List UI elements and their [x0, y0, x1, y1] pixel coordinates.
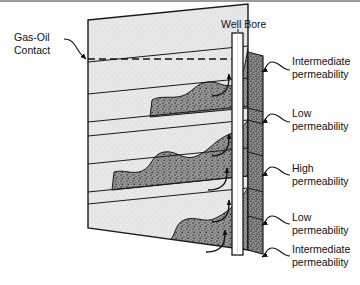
permeability-label-4: Intermediate permeability — [292, 243, 350, 268]
gas-oil-contact-label: Gas-Oil Contact — [14, 31, 50, 56]
permeability-label-0-line2: permeability — [292, 68, 350, 81]
permeability-label-3: Low permeability — [292, 211, 349, 236]
block-end-face — [248, 52, 263, 254]
permeability-label-0: Intermediate permeability — [292, 55, 350, 80]
permeability-label-4-line1: Intermediate — [292, 243, 350, 256]
permeability-label-2-line1: High — [292, 162, 349, 175]
permeability-label-2-line2: permeability — [292, 175, 349, 188]
permeability-label-3-line2: permeability — [292, 224, 349, 237]
permeability-label-3-line1: Low — [292, 211, 349, 224]
permeability-label-0-line1: Intermediate — [292, 55, 350, 68]
permeability-label-1-line2: permeability — [292, 120, 349, 133]
permeability-label-1: Low permeability — [292, 107, 349, 132]
label-leaders — [262, 62, 290, 257]
well-bore-label: Well Bore — [221, 18, 266, 31]
gas-oil-contact-leader — [64, 39, 86, 59]
permeability-label-1-line1: Low — [292, 107, 349, 120]
gas-oil-contact-label-line2: Contact — [14, 44, 50, 57]
permeability-label-4-line2: permeability — [292, 256, 350, 269]
well-bore — [232, 33, 243, 255]
reservoir-block — [88, 4, 248, 262]
gas-oil-contact-label-line1: Gas-Oil — [14, 31, 50, 44]
permeability-label-2: High permeability — [292, 162, 349, 187]
